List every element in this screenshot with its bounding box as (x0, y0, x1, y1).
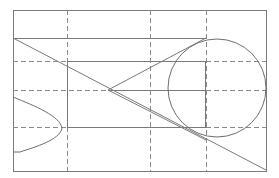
tangent-circle (168, 39, 266, 137)
left-curve (13, 97, 62, 152)
triangle-lower-edge (108, 90, 206, 140)
construction-diagram (0, 0, 279, 178)
main-diagonal (13, 38, 266, 170)
